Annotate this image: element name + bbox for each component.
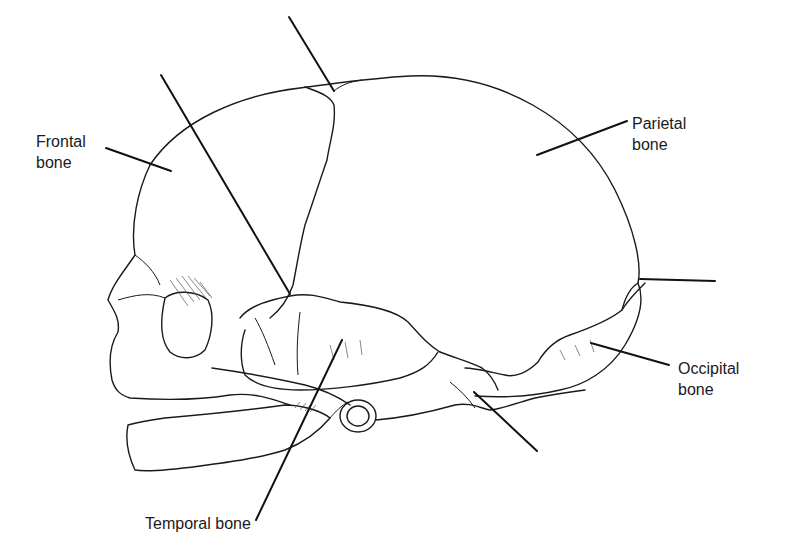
- skull-illustration: [0, 0, 802, 555]
- skull-base-outline: [376, 390, 585, 420]
- occipital-leader: [591, 343, 669, 365]
- parietal-leader: [537, 121, 627, 155]
- ear-canal-outer: [340, 400, 376, 432]
- zygomatic-arch: [212, 368, 350, 405]
- label-temporal-bone: Temporal bone: [145, 513, 251, 534]
- temporal-squama: [241, 330, 438, 390]
- skull-diagram: Frontal bone Parietal bone Occipital bon…: [0, 0, 802, 555]
- face-outline: [108, 165, 290, 405]
- label-parietal-bone: Parietal bone: [632, 113, 686, 155]
- label-occipital-bone: Occipital bone: [678, 358, 739, 400]
- coronal-suture: [270, 87, 334, 318]
- cranial-vault-outline: [150, 76, 641, 397]
- ear-canal-inner: [347, 406, 369, 426]
- mandible-outline: [127, 405, 330, 471]
- leader-lines: [106, 17, 715, 520]
- orbit-outline: [162, 292, 212, 358]
- sphenoidal-fontanel-leader: [161, 75, 290, 294]
- temporal-leader: [256, 340, 342, 520]
- posterior-fontanel-leader: [640, 279, 715, 281]
- anterior-fontanel-leader: [289, 17, 334, 91]
- label-frontal-bone: Frontal bone: [36, 131, 86, 173]
